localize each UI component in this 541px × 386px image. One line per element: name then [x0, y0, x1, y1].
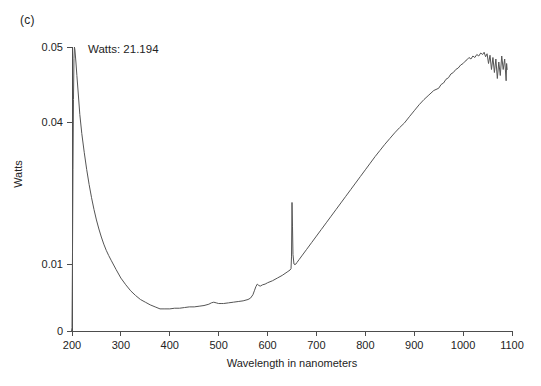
tick-labels: 2003004005006007008009001000110000.010.0… [42, 41, 524, 351]
y-tick-label: 0.05 [42, 41, 63, 53]
axes [67, 47, 512, 336]
y-tick-label: 0 [57, 325, 63, 337]
spectrum-plot: 2003004005006007008009001000110000.010.0… [0, 0, 541, 386]
y-tick-label: 0.01 [42, 258, 63, 270]
x-tick-label: 200 [63, 339, 81, 351]
x-tick-label: 500 [209, 339, 227, 351]
x-tick-label: 1000 [451, 339, 475, 351]
figure-panel-c: (c) Watts Wavelength in nanometers Watts… [0, 0, 541, 386]
y-tick-label: 0.04 [42, 116, 63, 128]
x-tick-label: 700 [307, 339, 325, 351]
x-tick-label: 800 [356, 339, 374, 351]
x-tick-label: 400 [161, 339, 179, 351]
data-series [72, 47, 508, 331]
x-tick-label: 1100 [500, 339, 524, 351]
x-tick-label: 900 [405, 339, 423, 351]
x-tick-label: 300 [112, 339, 130, 351]
x-tick-label: 600 [258, 339, 276, 351]
